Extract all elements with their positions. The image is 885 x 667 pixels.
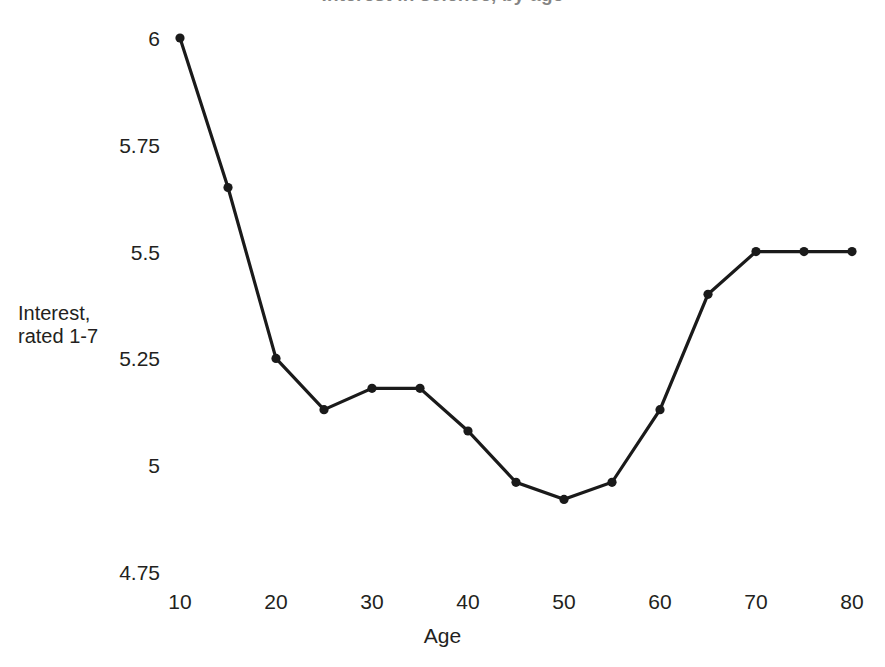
y-tick-label: 5.75 bbox=[40, 134, 160, 155]
data-point bbox=[511, 478, 520, 487]
y-tick-label: 5.5 bbox=[40, 241, 160, 262]
x-tick-label: 30 bbox=[360, 591, 383, 612]
data-point bbox=[367, 384, 376, 393]
data-point bbox=[415, 384, 424, 393]
data-point bbox=[655, 405, 664, 414]
x-tick-label: 40 bbox=[456, 591, 479, 612]
x-tick-label: 70 bbox=[744, 591, 767, 612]
y-axis-title-line2: rated 1-7 bbox=[18, 325, 146, 348]
y-tick-label: 6 bbox=[40, 28, 160, 49]
chart-page: Interest in science, by age Interest, ra… bbox=[0, 0, 885, 667]
data-point bbox=[751, 247, 760, 256]
y-tick-label: 5 bbox=[40, 455, 160, 476]
data-markers bbox=[175, 33, 856, 504]
x-tick-label: 10 bbox=[168, 591, 191, 612]
x-tick-label: 50 bbox=[552, 591, 575, 612]
x-tick-label: 20 bbox=[264, 591, 287, 612]
data-point bbox=[271, 354, 280, 363]
data-point bbox=[847, 247, 856, 256]
y-axis-title: Interest, rated 1-7 bbox=[18, 302, 146, 348]
x-tick-label: 60 bbox=[648, 591, 671, 612]
data-point bbox=[319, 405, 328, 414]
x-tick-label: 80 bbox=[840, 591, 863, 612]
data-point bbox=[559, 495, 568, 504]
y-tick-label: 5.25 bbox=[40, 348, 160, 369]
data-point bbox=[703, 290, 712, 299]
y-axis-title-line1: Interest, bbox=[18, 302, 146, 325]
data-point bbox=[799, 247, 808, 256]
y-tick-label: 4.75 bbox=[40, 562, 160, 583]
x-axis-title: Age bbox=[0, 624, 885, 648]
data-point bbox=[175, 33, 184, 42]
data-point bbox=[607, 478, 616, 487]
data-point bbox=[463, 426, 472, 435]
data-point bbox=[223, 183, 232, 192]
data-line bbox=[180, 38, 852, 499]
